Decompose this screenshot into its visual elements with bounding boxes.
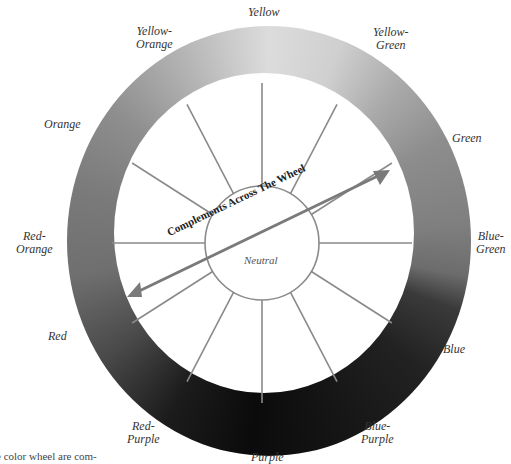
label-yellow: Yellow xyxy=(248,6,280,19)
label-red-orange: Red- Orange xyxy=(16,230,53,256)
label-purple: Purple xyxy=(251,451,284,464)
arrow-head-left xyxy=(127,282,142,297)
caption-fragment: e color wheel are com- xyxy=(0,450,97,462)
spoke xyxy=(291,104,338,193)
spoke xyxy=(311,272,392,324)
label-orange: Orange xyxy=(44,118,81,131)
neutral-label: Neutral xyxy=(244,254,278,266)
label-yellow-green: Yellow- Green xyxy=(373,26,409,52)
label-red: Red xyxy=(48,330,67,343)
label-blue: Blue xyxy=(443,343,465,356)
label-blue-green: Blue- Green xyxy=(476,230,506,256)
spoke xyxy=(132,272,213,324)
label-red-purple: Red- Purple xyxy=(127,420,160,446)
spoke xyxy=(187,104,234,193)
label-yellow-orange: Yellow- Orange xyxy=(136,25,173,51)
spoke xyxy=(291,292,338,381)
label-green: Green xyxy=(452,132,482,145)
label-blue-purple: Blue- Purple xyxy=(361,420,394,446)
spoke xyxy=(132,163,213,215)
spoke xyxy=(187,292,234,381)
